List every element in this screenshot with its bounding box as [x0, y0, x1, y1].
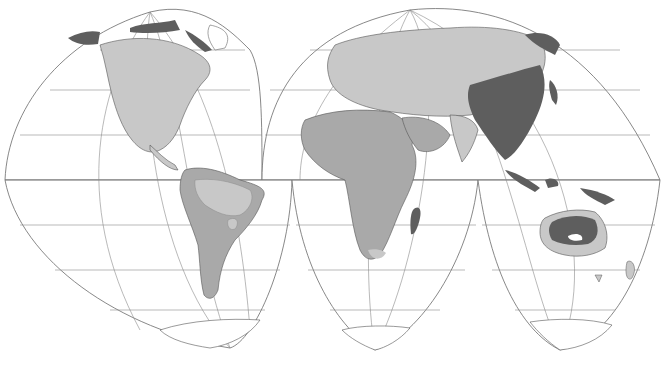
- region-australia-interior: [549, 216, 598, 245]
- region-arctic: [68, 31, 100, 45]
- world-map: [0, 0, 665, 368]
